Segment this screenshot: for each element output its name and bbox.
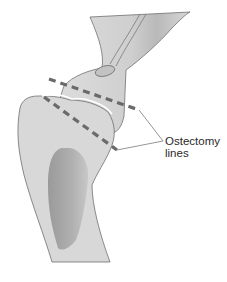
label-line-1: Ostectomy bbox=[165, 135, 220, 147]
ostectomy-diagram: Ostectomy lines bbox=[0, 0, 227, 282]
label-line-2: lines bbox=[165, 147, 220, 159]
ostectomy-label: Ostectomy lines bbox=[165, 135, 220, 159]
